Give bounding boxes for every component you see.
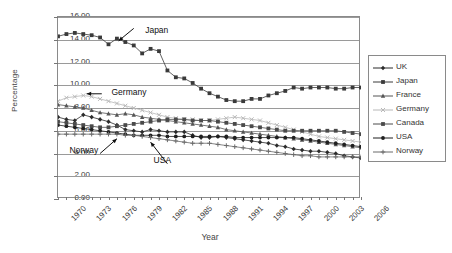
x-tick-mark xyxy=(167,197,168,200)
annotation-germany: Germany xyxy=(112,87,147,97)
plot-area: 1970197319761979198219851988199119941997… xyxy=(57,16,360,198)
x-tick-mark xyxy=(252,197,253,200)
x-tick-label: 2000 xyxy=(322,204,341,223)
x-tick-label: 1979 xyxy=(145,204,164,223)
legend-marker-square-icon xyxy=(372,116,394,128)
x-tick-mark xyxy=(302,197,303,200)
legend-marker-x-icon xyxy=(372,102,394,114)
x-tick-mark xyxy=(353,197,354,200)
x-tick-mark xyxy=(243,197,244,200)
legend-label: Germany xyxy=(394,104,429,113)
legend-item-france[interactable]: France xyxy=(372,87,445,101)
legend-item-uk[interactable]: UK xyxy=(372,59,445,73)
x-tick-mark xyxy=(142,197,143,200)
legend-label: USA xyxy=(394,132,412,141)
x-tick-mark xyxy=(336,197,337,200)
x-tick-mark xyxy=(100,197,101,200)
x-tick-mark xyxy=(226,197,227,200)
x-tick-mark xyxy=(109,197,110,200)
x-tick-label: 1985 xyxy=(195,204,214,223)
x-tick-mark xyxy=(176,197,177,200)
x-tick-label: 2003 xyxy=(347,204,366,223)
x-tick-mark xyxy=(66,197,67,200)
legend-label: Norway xyxy=(394,146,423,155)
legend-item-norway[interactable]: Norway xyxy=(372,143,445,157)
annotation-japan: Japan xyxy=(145,25,168,35)
legend-marker-triangle-icon xyxy=(372,88,394,100)
legend-marker-circle-icon xyxy=(372,130,394,142)
legend-item-canada[interactable]: Canada xyxy=(372,115,445,129)
x-tick-mark xyxy=(210,197,211,200)
annotation-norway: Norway xyxy=(69,145,98,155)
x-tick-mark xyxy=(277,197,278,200)
x-tick-mark xyxy=(218,197,219,200)
x-tick-mark xyxy=(159,197,160,200)
legend-marker-plus-icon xyxy=(372,144,394,156)
series-japan xyxy=(58,31,361,103)
legend-label: Canada xyxy=(394,118,424,127)
x-tick-label: 1997 xyxy=(296,204,315,223)
x-tick-mark xyxy=(125,197,126,200)
legend-label: UK xyxy=(394,62,407,71)
x-tick-label: 1976 xyxy=(120,204,139,223)
legend-item-japan[interactable]: Japan xyxy=(372,73,445,87)
legend: UKJapanFranceGermanyCanadaUSANorway xyxy=(368,55,446,162)
series-canvas xyxy=(58,17,361,199)
x-tick-label: 1973 xyxy=(94,204,113,223)
legend-label: Japan xyxy=(394,76,418,85)
x-tick-mark xyxy=(151,197,152,200)
x-axis-title: Year xyxy=(150,232,270,242)
x-tick-mark xyxy=(260,197,261,200)
chart-figure: Percentage Year 0.002.004.006.008.0010.0… xyxy=(0,0,452,253)
legend-marker-square-icon xyxy=(372,74,394,86)
x-tick-mark xyxy=(311,197,312,200)
y-axis-title: Percentage xyxy=(10,51,19,131)
legend-item-usa[interactable]: USA xyxy=(372,129,445,143)
x-tick-mark xyxy=(201,197,202,200)
x-tick-mark xyxy=(344,197,345,200)
x-tick-label: 1994 xyxy=(271,204,290,223)
x-tick-mark xyxy=(268,197,269,200)
x-tick-mark xyxy=(75,197,76,200)
x-tick-mark xyxy=(327,197,328,200)
annotation-usa: USA xyxy=(154,155,171,165)
x-tick-mark xyxy=(117,197,118,200)
x-tick-label: 1988 xyxy=(221,204,240,223)
legend-label: France xyxy=(394,90,421,99)
x-tick-label: 1982 xyxy=(170,204,189,223)
x-tick-mark xyxy=(294,197,295,200)
x-tick-mark xyxy=(361,197,362,200)
x-tick-mark xyxy=(83,197,84,200)
x-tick-mark xyxy=(92,197,93,200)
x-tick-mark xyxy=(184,197,185,200)
x-tick-label: 1970 xyxy=(69,204,88,223)
x-tick-label: 2006 xyxy=(372,204,391,223)
x-tick-mark xyxy=(193,197,194,200)
x-tick-mark xyxy=(319,197,320,200)
x-tick-mark xyxy=(285,197,286,200)
legend-marker-diamond-icon xyxy=(372,60,394,72)
legend-item-germany[interactable]: Germany xyxy=(372,101,445,115)
x-tick-label: 1991 xyxy=(246,204,265,223)
x-tick-mark xyxy=(58,197,59,200)
x-tick-mark xyxy=(235,197,236,200)
x-tick-mark xyxy=(134,197,135,200)
